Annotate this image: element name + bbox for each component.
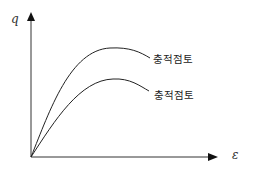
lower-curve-label: 충적점토 bbox=[154, 87, 194, 102]
x-axis-arrow-icon bbox=[208, 153, 218, 161]
y-axis-label: q bbox=[11, 12, 19, 26]
diagram-canvas bbox=[0, 0, 253, 174]
lower-curve bbox=[31, 79, 149, 157]
y-axis-arrow-icon bbox=[27, 12, 35, 21]
x-axis-label: ε bbox=[232, 148, 238, 162]
upper-curve bbox=[31, 48, 150, 157]
upper-curve-label: 충적점토 bbox=[153, 51, 193, 66]
